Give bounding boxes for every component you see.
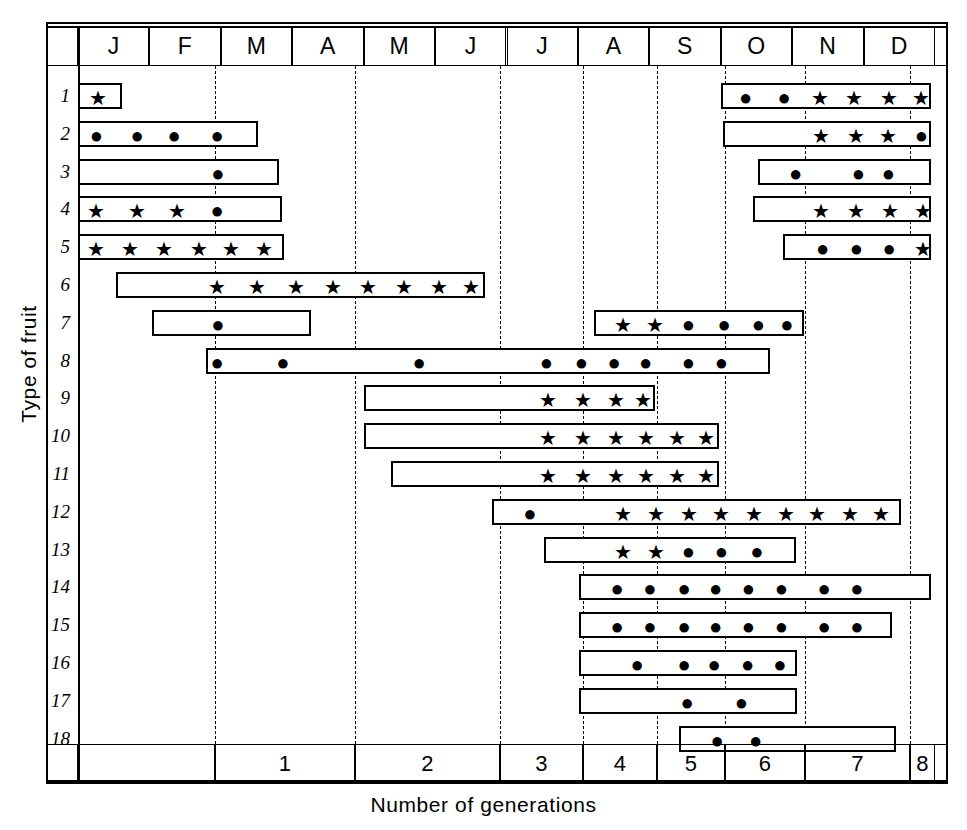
- marker-star-row-11-6: ★: [697, 466, 715, 486]
- month-header-cell-s-9: S: [649, 26, 720, 66]
- bar-row-5-segment-2: ●●●★: [783, 234, 932, 260]
- marker-dot-row-16-2: ●: [678, 654, 691, 676]
- generation-footer-cell-7: 7: [805, 744, 910, 784]
- marker-star-row-9-1: ★: [539, 390, 557, 410]
- marker-star-row-12-6: ★: [745, 504, 763, 524]
- chart-figure: JFMAMJJASOND ★●●★★★★●●●●★★★●●●●●★★★●★★★★…: [0, 0, 967, 830]
- bar-row-2-segment-1: ●●●●: [78, 121, 258, 147]
- marker-star-row-9-4: ★: [634, 390, 652, 410]
- marker-star-row-6-2: ★: [248, 277, 266, 297]
- marker-star-row-4-2: ★: [847, 201, 865, 221]
- marker-star-row-7-1: ★: [614, 315, 632, 335]
- marker-dot-row-7-5: ●: [752, 314, 765, 336]
- marker-dot-row-7-4: ●: [718, 314, 731, 336]
- marker-star-row-7-2: ★: [646, 315, 664, 335]
- marker-star-row-4-3: ★: [881, 201, 899, 221]
- marker-star-row-10-2: ★: [574, 428, 592, 448]
- marker-star-row-4-3: ★: [168, 201, 186, 221]
- marker-star-row-12-9: ★: [841, 504, 859, 524]
- marker-dot-row-8-6: ●: [608, 352, 621, 374]
- row-label-16: 16: [34, 653, 70, 672]
- bar-row-8-segment-1: ●●●●●●●●●: [206, 348, 770, 374]
- marker-star-row-6-4: ★: [324, 277, 342, 297]
- marker-star-row-4-2: ★: [128, 201, 146, 221]
- marker-star-row-12-10: ★: [872, 504, 890, 524]
- marker-star-row-5-4: ★: [190, 239, 208, 259]
- generation-footer-cell-5: 5: [657, 744, 725, 784]
- bar-row-15-segment-1: ●●●●●●●●: [579, 612, 892, 638]
- marker-dot-row-14-5: ●: [742, 578, 755, 600]
- marker-dot-row-8-9: ●: [715, 352, 728, 374]
- marker-star-row-12-4: ★: [680, 504, 698, 524]
- marker-star-row-11-4: ★: [637, 466, 655, 486]
- marker-dot-row-14-3: ●: [678, 578, 691, 600]
- marker-dot-row-15-6: ●: [775, 616, 788, 638]
- marker-dot-row-17-1: ●: [680, 692, 693, 714]
- bar-row-3-segment-2: ●●●: [758, 159, 932, 185]
- bar-row-7-segment-2: ★★●●●●: [594, 310, 805, 336]
- marker-dot-row-8-4: ●: [540, 352, 553, 374]
- month-header-cell-m-3: M: [221, 26, 292, 66]
- month-header-cell-o-10: O: [721, 26, 792, 66]
- marker-dot-row-16-5: ●: [773, 654, 786, 676]
- marker-dot-row-16-4: ●: [741, 654, 754, 676]
- marker-star-row-1-4: ★: [845, 88, 863, 108]
- marker-dot-row-14-6: ●: [775, 578, 788, 600]
- month-header-cell-d-12: D: [864, 26, 935, 66]
- marker-dot-row-14-4: ●: [709, 578, 722, 600]
- month-header-cell-a-8: A: [578, 26, 649, 66]
- marker-star-row-6-8: ★: [462, 277, 480, 297]
- marker-star-row-11-3: ★: [607, 466, 625, 486]
- marker-dot-row-1-2: ●: [778, 87, 791, 109]
- marker-star-row-1-5: ★: [880, 88, 898, 108]
- bar-row-16-segment-1: ●●●●●: [579, 650, 797, 676]
- bar-row-1-segment-2: ●●★★★★: [721, 83, 932, 109]
- row-label-14: 14: [34, 577, 70, 596]
- marker-star-row-6-7: ★: [430, 277, 448, 297]
- marker-dot-row-2-2: ●: [130, 125, 143, 147]
- month-header-cell-n-11: N: [792, 26, 863, 66]
- marker-star-row-9-3: ★: [607, 390, 625, 410]
- bar-row-3-segment-1: ●: [78, 159, 279, 185]
- marker-star-row-5-2: ★: [121, 239, 139, 259]
- marker-dot-row-5-3: ●: [882, 238, 895, 260]
- bar-row-14-segment-1: ●●●●●●●●: [579, 574, 931, 600]
- marker-dot-row-8-2: ●: [276, 352, 289, 374]
- row-label-5: 5: [34, 237, 70, 256]
- bar-row-4-segment-2: ★★★★: [753, 196, 932, 222]
- marker-star-row-4-1: ★: [812, 201, 830, 221]
- bar-row-2-segment-2: ★★★●: [723, 121, 932, 147]
- marker-dot-row-15-1: ●: [610, 616, 623, 638]
- marker-star-row-5-6: ★: [255, 239, 273, 259]
- bar-row-1-segment-1: ★: [78, 83, 122, 109]
- marker-star-row-1-3: ★: [811, 88, 829, 108]
- marker-star-row-10-4: ★: [637, 428, 655, 448]
- marker-dot-row-7-6: ●: [780, 314, 793, 336]
- bar-row-13-segment-1: ★★●●●: [544, 537, 795, 563]
- row-label-17: 17: [34, 691, 70, 710]
- row-label-15: 15: [34, 615, 70, 634]
- marker-dot-row-7-3: ●: [682, 314, 695, 336]
- bar-row-12-segment-1: ●★★★★★★★★★: [492, 499, 901, 525]
- month-header-corner: [46, 26, 78, 66]
- y-axis-title: Type of fruit: [17, 289, 41, 439]
- marker-dot-row-3-2: ●: [852, 163, 865, 185]
- marker-star-row-1-6: ★: [912, 88, 930, 108]
- marker-dot-row-8-8: ●: [682, 352, 695, 374]
- marker-dot-row-8-7: ●: [639, 352, 652, 374]
- marker-star-row-6-3: ★: [287, 277, 305, 297]
- marker-dot-row-2-3: ●: [168, 125, 181, 147]
- marker-dot-row-15-2: ●: [643, 616, 656, 638]
- row-label-3: 3: [34, 162, 70, 181]
- marker-dot-row-13-4: ●: [715, 541, 728, 563]
- marker-star-row-10-6: ★: [697, 428, 715, 448]
- marker-dot-row-13-5: ●: [750, 541, 763, 563]
- month-header-cell-j-1: J: [78, 26, 149, 66]
- bar-row-5-segment-1: ★★★★★★: [78, 234, 284, 260]
- marker-dot-row-1-1: ●: [739, 87, 752, 109]
- row-label-1: 1: [34, 86, 70, 105]
- marker-dot-row-3-3: ●: [882, 163, 895, 185]
- marker-star-row-6-6: ★: [395, 277, 413, 297]
- marker-star-row-5-4: ★: [914, 239, 932, 259]
- bar-row-17-segment-1: ●●: [579, 688, 797, 714]
